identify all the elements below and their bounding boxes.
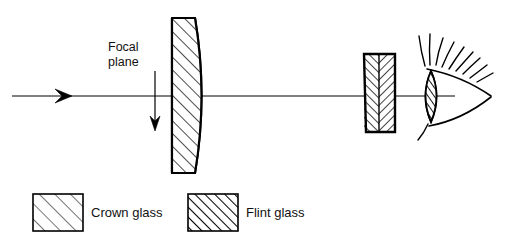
eyelash-stroke <box>477 73 493 82</box>
eyepiece-doublet <box>358 48 402 140</box>
legend-item-crown-glass: Crown glass <box>33 194 163 231</box>
eye-inner-canthus-stroke <box>418 124 428 140</box>
eyelash-stroke <box>419 36 425 66</box>
eyelash-stroke <box>430 34 431 65</box>
legend-group: Crown glass Flint glass <box>33 194 305 231</box>
eyelash-stroke <box>436 38 443 65</box>
objective-lens-hatching <box>165 10 220 185</box>
optical-ray-diagram-canvas: Focal plane <box>0 0 509 246</box>
objective-lens <box>165 10 220 185</box>
eye-group <box>418 34 493 140</box>
eyelash-stroke <box>470 65 487 78</box>
legend-item-flint-glass: Flint glass <box>188 194 305 231</box>
eye-lower-lid-line <box>429 97 491 126</box>
legend-label-crown-glass: Crown glass <box>91 205 163 220</box>
focal-plane-label-line2: plane <box>108 55 139 69</box>
legend-label-flint-glass: Flint glass <box>246 205 305 220</box>
focal-plane-annotation: Focal plane <box>108 40 160 131</box>
focal-plane-label-line1: Focal <box>108 40 139 54</box>
eyelash-stroke <box>449 47 464 69</box>
legend-swatch-crown-glass <box>33 194 83 231</box>
legend-swatch-flint-glass <box>188 194 238 231</box>
optical-diagram-figure: Focal plane <box>0 0 509 246</box>
